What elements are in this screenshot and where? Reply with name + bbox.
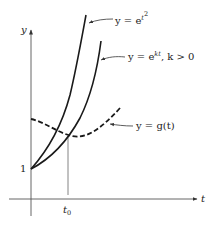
curve2-prefix: y = e — [128, 51, 154, 62]
curve3-annotation: y = g(t) — [136, 121, 175, 131]
curve-exp-kt — [31, 41, 101, 169]
t-axis-label: t — [201, 194, 205, 204]
y-tick-label-one: 1 — [20, 164, 26, 174]
plot-svg — [0, 0, 213, 228]
graph-figure: y t 1 t0 y = et2 y = ekt, k > 0 y = g(t) — [0, 0, 213, 228]
curve2-suffix: , k > 0 — [161, 51, 195, 62]
y-axis-label-text: y — [21, 24, 27, 35]
curve1-prefix: y = e — [115, 15, 141, 26]
curve2-annotation: y = ekt, k > 0 — [128, 52, 194, 62]
leader-arrow-curve1 — [89, 19, 113, 23]
t-axis-label-text: t — [201, 193, 205, 204]
y-tick-one-text: 1 — [20, 163, 26, 174]
curve-exp-t-squared — [31, 15, 86, 169]
y-axis-label: y — [21, 25, 27, 35]
leader-arrow-curve3 — [110, 124, 133, 126]
t0-subscript: 0 — [67, 209, 71, 217]
curve-g-of-t — [31, 108, 120, 137]
curve3-text: y = g(t) — [136, 120, 175, 131]
curve1-annotation: y = et2 — [115, 14, 148, 26]
leader-arrow-curve2 — [101, 57, 125, 60]
curve1-exponent-power: 2 — [144, 10, 148, 18]
t0-label: t0 — [63, 205, 71, 215]
